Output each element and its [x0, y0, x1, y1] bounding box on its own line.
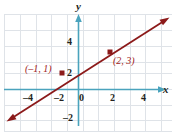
x-axis-label: x — [163, 84, 169, 95]
point-label-minus1-1: (–1, 1) — [25, 64, 52, 74]
x-tick-label-neg4: –4 — [23, 93, 33, 103]
y-axis-label: y — [76, 1, 81, 12]
data-point-marker-b — [108, 50, 113, 55]
y-tick-label-neg2: –2 — [63, 113, 73, 123]
y-tick-label-2: 2 — [67, 68, 72, 78]
data-point-marker-a — [60, 71, 65, 76]
x-tick-label-4: 4 — [141, 93, 146, 103]
x-tick-label-2: 2 — [110, 93, 115, 103]
x-tick-label-zero: 0 — [79, 93, 84, 103]
coordinate-plane-figure: –4 –2 0 2 4 4 2 –2 x y (–1, 1) (2, 3) — [0, 0, 176, 134]
point-label-2-3: (2, 3) — [113, 56, 135, 66]
y-tick-label-4: 4 — [67, 37, 72, 47]
x-tick-label-neg2: –2 — [54, 93, 64, 103]
